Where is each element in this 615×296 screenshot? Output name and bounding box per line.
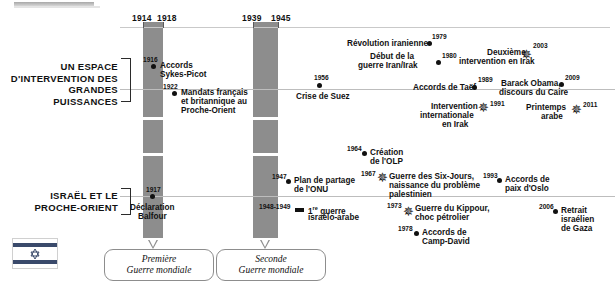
callout-line2: Guerre mondiale	[127, 265, 192, 275]
event-label-line2: arabe	[541, 112, 563, 122]
event-year: 2011	[583, 101, 597, 108]
callout-line1: Première	[142, 254, 177, 264]
row-title-line2: PROCHE-ORIENT	[34, 202, 118, 213]
event-year: 1922	[163, 83, 178, 90]
axis-row-israel	[120, 196, 615, 197]
event-label-line1: Crise de Suez	[296, 92, 350, 102]
event-marker-dot	[317, 83, 322, 88]
event-marker-dot	[553, 209, 558, 214]
event-year: 2003	[533, 42, 548, 49]
event-label-line3: Proche-Orient	[181, 106, 236, 116]
callout-stem-ww2	[260, 240, 270, 249]
event-year: 2006	[539, 203, 554, 210]
event-label-line2: choc pétrolier	[415, 213, 469, 223]
event-year: 1916	[143, 56, 158, 63]
event-year: 1917	[146, 186, 161, 193]
event-marker-dot	[436, 60, 441, 65]
year-label-1939: 1939	[242, 13, 262, 23]
row-title-line1: ISRAËL ET LE	[50, 190, 118, 201]
row-title-line2: D'INTERVENTION DES	[11, 73, 118, 84]
event-label-line2: intervention en Irak	[459, 57, 535, 67]
event-label-line2: guerre Iran/Irak	[358, 61, 418, 71]
header-rule-shadow	[14, 6, 100, 8]
event-year: 1956	[314, 74, 329, 81]
timeline-figure: 1914 1918 1939 1945 UN ESPACE D'INTERVEN…	[0, 0, 615, 296]
event-label-line2: discours du Caire	[499, 88, 568, 98]
event-label-line3: palestinien	[389, 190, 432, 200]
event-marker-dot	[362, 151, 367, 156]
row-title-line3: GRANDES PUISSANCES	[53, 84, 118, 107]
flag-stripe-top	[13, 243, 57, 247]
event-year: 1973	[387, 202, 402, 209]
event-year: 1947	[272, 173, 287, 180]
event-year: 1948-1949	[259, 203, 291, 210]
event-marker-star: ✵	[377, 172, 388, 183]
band-gap	[253, 153, 278, 156]
flag-stripe-bottom	[13, 260, 57, 264]
row-bracket-puissances	[121, 58, 131, 102]
event-marker-star: ✵	[478, 102, 489, 113]
event-label-line2: israélo-arabe	[308, 213, 359, 223]
callout-ww2: Seconde Guerre mondiale	[216, 249, 326, 281]
event-label-line3: en Irak	[442, 120, 468, 130]
year-label-1918: 1918	[157, 13, 177, 23]
event-marker-dot	[497, 178, 502, 183]
event-year: 1980	[442, 52, 457, 59]
event-label-line2: paix d'Oslo	[505, 184, 549, 194]
event-label-line1: Révolution iranienne	[347, 39, 428, 49]
star-of-david-icon	[29, 248, 41, 260]
event-marker-star: ✵	[571, 104, 582, 115]
event-year: 1964	[347, 145, 362, 152]
event-year: 1993	[483, 172, 498, 179]
event-label-line3: de Gaza	[561, 224, 592, 234]
event-marker-dot	[151, 64, 156, 69]
event-year: 1978	[398, 225, 413, 232]
callout-line2: Guerre mondiale	[239, 265, 304, 275]
row-title-puissances: UN ESPACE D'INTERVENTION DES GRANDES PUI…	[10, 61, 118, 107]
row-title-israel: ISRAËL ET LE PROCHE-ORIENT	[10, 190, 118, 213]
band-gap	[143, 153, 163, 156]
row-title-line1: UN ESPACE	[61, 61, 118, 72]
event-label-line2: de l'OLP	[370, 157, 403, 167]
year-label-1914: 1914	[132, 13, 152, 23]
event-label-line2: de l'ONU	[294, 185, 328, 195]
band-gap	[253, 117, 278, 120]
event-marker-dot	[286, 179, 291, 184]
event-label-line2: Balfour	[138, 212, 167, 222]
event-label-line1: Accords de Taëf	[413, 83, 476, 93]
event-year: 1989	[478, 76, 493, 83]
year-label-1945: 1945	[271, 13, 291, 23]
event-marker-bar	[295, 208, 304, 212]
event-label-line2: Sykes-Picot	[160, 70, 206, 80]
event-year: 2009	[565, 74, 580, 81]
callout-ww1: Première Guerre mondiale	[104, 249, 214, 281]
event-year: 1967	[361, 170, 376, 177]
event-marker-star: ✵	[403, 206, 414, 217]
callout-line1: Seconde	[255, 254, 287, 264]
callout-stem-ww1	[148, 240, 158, 249]
band-gap	[143, 117, 163, 120]
event-year: 1979	[432, 33, 447, 40]
israel-flag-icon	[12, 238, 58, 269]
event-marker-dot	[414, 231, 419, 236]
event-marker-dot	[150, 194, 155, 199]
event-year: 1991	[490, 100, 505, 107]
event-label-line2: Camp-David	[422, 237, 470, 247]
year-ruler	[120, 27, 610, 28]
event-marker-dot	[172, 91, 177, 96]
